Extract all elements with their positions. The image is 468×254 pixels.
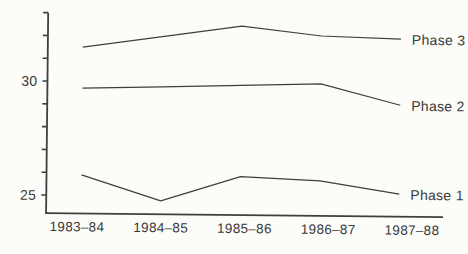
y-axis [46, 13, 48, 213]
series-line-phase-1 [81, 175, 399, 203]
x-axis [45, 213, 443, 217]
x-axis-label-1984-85: 1984–85 [133, 220, 188, 236]
series-label-phase-2: Phase 2 [411, 98, 465, 115]
series-line-phase-3 [83, 24, 401, 50]
y-axis-label-25: 25 [20, 187, 36, 203]
y-axis-label-30: 30 [21, 73, 37, 89]
series-label-phase-3: Phase 3 [412, 32, 466, 49]
x-axis-label-1986-87: 1986–87 [301, 222, 356, 238]
x-axis-label-1987-88: 1987–88 [385, 223, 440, 239]
x-axis-label-1983-84: 1983–84 [50, 219, 105, 235]
series-line-phase-2 [82, 81, 400, 105]
line-chart-figure: 30251983–841984–851985–861986–871987–88P… [0, 0, 468, 254]
series-label-phase-1: Phase 1 [410, 187, 464, 204]
line-chart: 30251983–841984–851985–861986–871987–88P… [0, 0, 468, 254]
x-axis-label-1985-86: 1985–86 [217, 221, 272, 237]
